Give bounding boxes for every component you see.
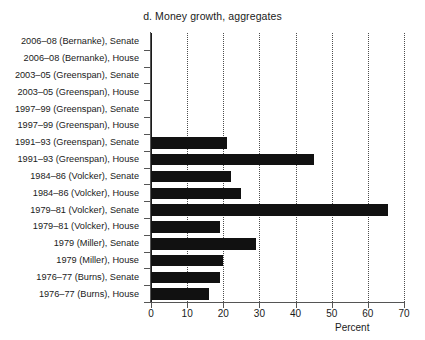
bar-row[interactable] [151,235,404,253]
bar[interactable] [151,272,220,284]
x-tick-label-50: 50 [312,308,352,319]
category-label: 1979–81 (Volcker), Senate [0,205,139,215]
y-tick [144,134,151,135]
y-tick [144,201,151,202]
bar[interactable] [151,154,314,166]
category-label: 1979–81 (Volcker), House [0,221,139,231]
bar[interactable] [151,137,227,149]
bar-row[interactable] [151,67,404,85]
bar-row[interactable] [151,218,404,236]
category-label: 1997–99 (Greenspan), House [0,120,139,130]
x-axis-line [150,302,405,303]
bar-row[interactable] [151,201,404,219]
x-tick-label-0: 0 [131,308,171,319]
bar[interactable] [151,238,256,250]
y-tick [144,50,151,51]
category-label: 2003–05 (Greenspan), Senate [0,70,139,80]
category-label: 1979 (Miller), House [0,255,139,265]
y-tick [144,117,151,118]
y-tick [144,252,151,253]
category-label: 1976–77 (Burns), Senate [0,272,139,282]
bar-row[interactable] [151,100,404,118]
category-label: 1984–86 (Volcker), Senate [0,171,139,181]
y-tick [144,184,151,185]
bar-row[interactable] [151,83,404,101]
x-tick-label-60: 60 [348,308,388,319]
x-tick-label-70: 70 [384,308,424,319]
category-label: 2006–08 (Bernanke), Senate [0,36,139,46]
plot-area [151,33,404,302]
bar-row[interactable] [151,252,404,270]
category-label: 2006–08 (Bernanke), House [0,53,139,63]
category-label: 1979 (Miller), Senate [0,238,139,248]
chart-figure: d. Money growth, aggregates Percent 2006… [0,0,425,340]
bar-row[interactable] [151,285,404,303]
y-tick [144,268,151,269]
category-label: 2003–05 (Greenspan), House [0,87,139,97]
x-tick-label-30: 30 [239,308,279,319]
y-tick [144,235,151,236]
y-tick [144,83,151,84]
y-tick [144,285,151,286]
bar[interactable] [151,221,220,233]
y-tick [144,151,151,152]
x-tick-label-20: 20 [203,308,243,319]
y-tick [144,168,151,169]
x-axis-title: Percent [335,322,369,333]
bar-row[interactable] [151,134,404,152]
category-label: 1991–93 (Greenspan), Senate [0,137,139,147]
bar[interactable] [151,188,241,200]
bar-row[interactable] [151,50,404,68]
bar-row[interactable] [151,117,404,135]
y-tick [144,302,151,303]
chart-title: d. Money growth, aggregates [0,10,425,22]
bar-row[interactable] [151,33,404,51]
y-tick [144,218,151,219]
x-tick-label-10: 10 [167,308,207,319]
bar-row[interactable] [151,268,404,286]
bar[interactable] [151,255,223,267]
category-label: 1997–99 (Greenspan), Senate [0,104,139,114]
x-tick-label-40: 40 [276,308,316,319]
bar[interactable] [151,204,388,216]
bar-row[interactable] [151,184,404,202]
y-tick [144,100,151,101]
bar-row[interactable] [151,168,404,186]
bar[interactable] [151,171,231,183]
category-label: 1984–86 (Volcker), House [0,188,139,198]
bar-row[interactable] [151,151,404,169]
gridline-70 [404,33,405,302]
bar[interactable] [151,288,209,300]
category-label: 1976–77 (Burns), House [0,289,139,299]
y-tick [144,67,151,68]
category-label: 1991–93 (Greenspan), House [0,154,139,164]
